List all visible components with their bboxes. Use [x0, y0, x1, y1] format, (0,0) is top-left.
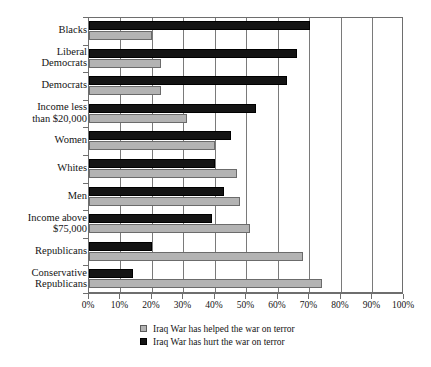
- bar-hurt: [89, 104, 256, 113]
- y-axis-tick: [83, 100, 88, 101]
- bar-hurt: [89, 49, 297, 58]
- legend-swatch-helped: [140, 325, 147, 332]
- bar-group: [89, 239, 402, 267]
- bar-hurt: [89, 214, 212, 223]
- bar-helped: [89, 141, 215, 150]
- bar-helped: [89, 224, 250, 233]
- bar-group: [89, 46, 402, 74]
- bar-helped: [89, 86, 161, 95]
- x-axis-tick: [245, 294, 246, 299]
- x-axis-tick: [403, 294, 404, 299]
- x-axis-tick: [182, 294, 183, 299]
- y-axis-label: Men: [68, 190, 87, 202]
- bar-helped: [89, 197, 240, 206]
- legend-item: Iraq War has hurt the war on terror: [140, 335, 295, 348]
- plot-area: [88, 17, 403, 293]
- y-axis-label: Whites: [57, 162, 87, 174]
- y-axis-tick: [83, 155, 88, 156]
- legend-label: Iraq War has helped the war on terror: [153, 324, 295, 334]
- x-axis-tick: [340, 294, 341, 299]
- y-axis-tick: [83, 45, 88, 46]
- bar-hurt: [89, 159, 215, 168]
- y-axis-label: Conservative Republicans: [32, 267, 87, 290]
- bar-helped: [89, 279, 322, 288]
- legend-item: Iraq War has helped the war on terror: [140, 322, 295, 335]
- x-axis-tick: [277, 294, 278, 299]
- grouped-bar-chart: BlacksLiberal DemocratsDemocratsIncome l…: [0, 0, 431, 367]
- y-axis-tick: [83, 238, 88, 239]
- bar-hurt: [89, 131, 231, 140]
- y-axis-label: Women: [55, 134, 87, 146]
- bar-group: [89, 184, 402, 212]
- bar-group: [89, 211, 402, 239]
- bar-hurt: [89, 242, 152, 251]
- y-axis-tick: [83, 72, 88, 73]
- bar-group: [89, 156, 402, 184]
- y-axis-label: Income less than $20,000: [32, 101, 87, 124]
- legend-swatch-hurt: [140, 338, 147, 345]
- y-axis-label: Blacks: [58, 24, 87, 36]
- bar-group: [89, 101, 402, 129]
- y-axis-tick: [83, 265, 88, 266]
- bar-helped: [89, 169, 237, 178]
- y-axis-tick: [83, 183, 88, 184]
- bar-hurt: [89, 76, 287, 85]
- y-axis-tick: [83, 210, 88, 211]
- bar-group: [89, 73, 402, 101]
- x-axis-tick: [88, 294, 89, 299]
- x-axis-tick: [308, 294, 309, 299]
- bar-helped: [89, 252, 303, 261]
- bar-group: [89, 128, 402, 156]
- x-axis-tick-label: 100%: [383, 300, 423, 310]
- bar-group: [89, 18, 402, 46]
- y-axis-label: Liberal Democrats: [42, 46, 87, 69]
- y-axis-label: Democrats: [42, 79, 87, 91]
- bar-helped: [89, 114, 187, 123]
- legend-label: Iraq War has hurt the war on terror: [153, 337, 285, 347]
- bar-hurt: [89, 21, 310, 30]
- bar-hurt: [89, 187, 224, 196]
- y-axis-tick: [83, 17, 88, 18]
- x-axis-tick: [119, 294, 120, 299]
- bar-hurt: [89, 269, 133, 278]
- y-axis-label: Republicans: [35, 245, 87, 257]
- x-axis-tick: [214, 294, 215, 299]
- x-axis-tick: [151, 294, 152, 299]
- bar-helped: [89, 59, 161, 68]
- y-axis-label: Income above $75,000: [28, 212, 87, 235]
- bar-helped: [89, 31, 152, 40]
- chart-legend: Iraq War has helped the war on terrorIra…: [140, 322, 295, 348]
- x-axis-tick: [371, 294, 372, 299]
- bar-group: [89, 266, 402, 294]
- y-axis-tick: [83, 127, 88, 128]
